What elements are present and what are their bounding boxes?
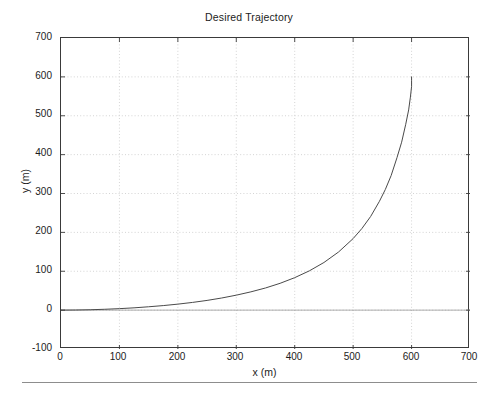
ytick-label-200: 200 (2, 225, 52, 236)
xtick-label-300: 300 (215, 351, 255, 362)
ytick-label-500: 500 (2, 108, 52, 119)
xtick-label-700: 700 (449, 351, 489, 362)
ytick-label-600: 600 (2, 70, 52, 81)
xtick-label-0: 0 (40, 351, 80, 362)
ytick-label-700: 700 (2, 31, 52, 42)
x-axis-label: x (m) (60, 366, 469, 378)
ytick-label-0: 0 (2, 303, 52, 314)
xtick-label-600: 600 (391, 351, 431, 362)
xtick-label-400: 400 (274, 351, 314, 362)
ytick-label-100: 100 (2, 264, 52, 275)
plot-area (60, 37, 469, 348)
bottom-divider (22, 382, 477, 383)
y-axis-label: y (m) (19, 151, 31, 211)
chart-title: Desired Trajectory (0, 11, 498, 23)
figure-canvas: Desired Trajectory (0, 0, 498, 397)
plot-svg (61, 38, 470, 349)
xtick-label-500: 500 (332, 351, 372, 362)
x-gridlines (119, 38, 411, 349)
xtick-label-100: 100 (98, 351, 138, 362)
xtick-label-200: 200 (157, 351, 197, 362)
